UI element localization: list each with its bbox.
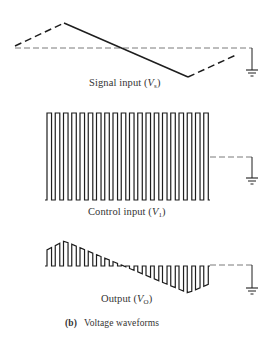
- signal-dashed-start: [15, 23, 64, 46]
- signal-ramp: [64, 23, 188, 77]
- signal-input-waveform: [15, 23, 258, 77]
- control-input-waveform: [45, 113, 258, 200]
- ground-icon: [246, 178, 258, 184]
- output-label-text: Output (: [101, 293, 137, 304]
- caption-tag: (b): [65, 318, 77, 328]
- ground-icon: [246, 70, 258, 76]
- caption-text: Voltage waveforms: [84, 318, 159, 328]
- figure-caption: (b)Voltage waveforms: [65, 318, 159, 328]
- control-input-label: Control input (V1): [88, 206, 166, 219]
- output-label: Output (VO): [101, 293, 152, 306]
- control-label-text: Control input (: [88, 206, 152, 217]
- ground-icon: [246, 288, 258, 294]
- output-waveform: [45, 241, 258, 294]
- control-square-wave: [45, 113, 210, 200]
- output-label-close: ): [149, 293, 153, 304]
- signal-input-label: Signal input (Vs): [89, 77, 161, 90]
- signal-label-close: ): [157, 77, 161, 88]
- signal-label-text: Signal input (: [89, 77, 148, 88]
- signal-dashed-end: [188, 55, 236, 77]
- voltage-waveforms-diagram: [0, 0, 273, 339]
- output-chopped-wave: [45, 241, 210, 292]
- control-label-close: ): [162, 206, 166, 217]
